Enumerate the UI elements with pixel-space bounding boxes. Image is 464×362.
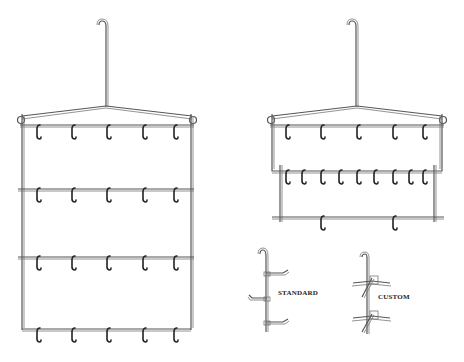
hooks-group [37,125,427,342]
s-hook-icon [339,170,343,184]
s-hook-icon [72,256,76,270]
right-rack [268,19,447,222]
s-hook-icon [72,188,76,202]
s-hook-icon [174,256,178,270]
s-hook-icon [409,170,413,184]
detail-hook-icon [260,250,266,332]
s-hook-icon [107,188,111,202]
s-hook-icon [37,328,41,342]
s-hook-icon [107,256,111,270]
s-hook-icon [143,256,147,270]
custom-detail: CUSTOM [352,252,410,334]
s-hook-icon [143,188,147,202]
loop-icon [18,117,25,124]
s-hook-icon [37,256,41,270]
top-hook-icon [99,21,106,106]
s-hook-icon [321,170,325,184]
hanger-rack-diagram: STANDARD CUSTOM [0,0,464,362]
s-hook-icon [174,188,178,202]
s-hook-icon [143,328,147,342]
s-hook-icon [423,170,427,184]
left-rack [18,19,197,331]
s-hook-icon [321,216,325,230]
s-hook-icon [393,216,397,230]
s-hook-icon [174,328,178,342]
s-hook-icon [374,170,378,184]
top-hook-icon [349,21,356,106]
s-hook-icon [286,170,290,184]
s-hook-icon [72,328,76,342]
custom-label: CUSTOM [378,293,410,301]
standard-label: STANDARD [278,289,318,297]
s-hook-icon [393,170,397,184]
s-hook-icon [302,170,306,184]
s-hook-icon [37,188,41,202]
s-hook-icon [357,170,361,184]
loop-icon [268,117,275,124]
standard-detail: STANDARD [248,248,318,332]
s-hook-icon [107,328,111,342]
loop-icon [440,117,447,124]
